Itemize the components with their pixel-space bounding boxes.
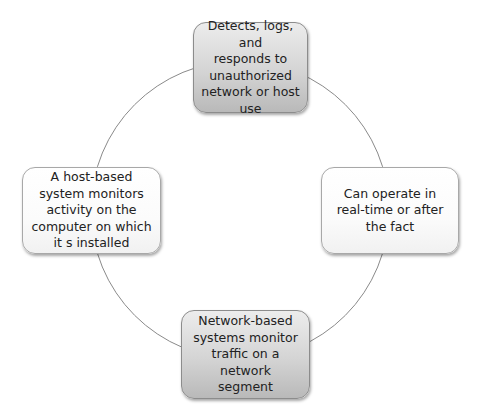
node-host-based: A host-based system monitors activity on… <box>22 167 161 254</box>
node-text: A host-based system monitors activity on… <box>31 169 151 252</box>
node-text: Can operate in real-time or after the fa… <box>337 186 444 236</box>
node-text: Detects, logs, and responds to unauthori… <box>200 18 301 117</box>
cycle-diagram: Detects, logs, and responds to unauthori… <box>0 0 477 418</box>
node-realtime-or-after: Can operate in real-time or after the fa… <box>321 167 459 254</box>
node-text: Network-based systems monitor traffic on… <box>188 313 303 396</box>
node-detects-logs-responds: Detects, logs, and responds to unauthori… <box>193 22 308 113</box>
node-network-based: Network-based systems monitor traffic on… <box>181 310 310 399</box>
